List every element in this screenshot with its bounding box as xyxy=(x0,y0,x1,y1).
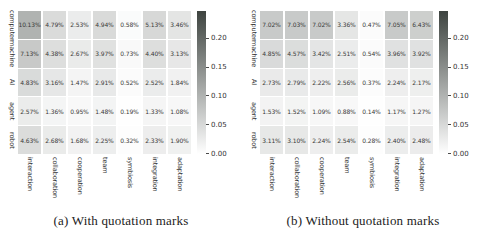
colorbar-tick: 0.10 xyxy=(448,92,469,100)
colorbar-tick: 0.20 xyxy=(448,34,469,42)
column-label: interaction xyxy=(260,157,283,209)
column-label: team xyxy=(335,157,358,209)
heatmap-cell: 3.10% xyxy=(285,126,308,154)
row-label-text: computer xyxy=(8,10,16,41)
panel-with-quotes: computermachineAIagentrobot 10.13%4.79%2… xyxy=(0,0,242,229)
heatmap-cell: 2.22% xyxy=(310,69,333,97)
heatmap-cell: 3.96% xyxy=(385,40,408,68)
row-label: AI xyxy=(247,69,260,97)
colorbar-tick-mark xyxy=(206,95,209,96)
column-label: adaptation xyxy=(410,157,433,209)
column-label-text: interaction xyxy=(268,157,276,191)
heatmap-cell: 2.56% xyxy=(335,69,358,97)
heatmap-cell: 4.57% xyxy=(285,40,308,68)
heatmap-grid: 7.02%7.03%7.02%3.36%0.47%7.05%6.43%4.85%… xyxy=(260,11,433,154)
heatmap-cell: 2.67% xyxy=(68,40,91,68)
column-label-text: team xyxy=(101,157,109,173)
column-label-text: symbiosis xyxy=(368,157,376,188)
column-label: integration xyxy=(143,157,166,209)
column-label: cooperation xyxy=(68,157,91,209)
heatmap-cell: 4.83% xyxy=(18,69,41,97)
heatmap-cell: 4.79% xyxy=(43,11,66,39)
x-axis-labels: interactioncollaborationcooperationteams… xyxy=(18,157,191,209)
colorbar-gradient xyxy=(197,11,206,154)
column-label-text: integration xyxy=(151,157,159,192)
heatmap-cell: 2.25% xyxy=(93,126,116,154)
colorbar-tick-label: 0.20 xyxy=(211,34,227,42)
heatmap-cell: 1.53% xyxy=(260,97,283,125)
colorbar-tick-label: 0.10 xyxy=(453,92,469,100)
heatmap-cell: 0.54% xyxy=(360,40,383,68)
row-label: computer xyxy=(5,11,18,39)
row-label: robot xyxy=(5,126,18,154)
y-axis-labels: computermachineAIagentrobot xyxy=(247,11,260,154)
heatmap-cell: 4.94% xyxy=(93,11,116,39)
column-label: team xyxy=(93,157,116,209)
colorbar-tick-mark xyxy=(206,67,209,68)
heatmap-cell: 2.40% xyxy=(385,126,408,154)
heatmap-cell: 7.02% xyxy=(260,11,283,39)
column-label-text: adaptation xyxy=(176,157,184,191)
heatmap-cell: 2.73% xyxy=(260,69,283,97)
heatmap-cell: 2.57% xyxy=(18,97,41,125)
row-label-text: robot xyxy=(8,132,16,149)
column-label: interaction xyxy=(18,157,41,209)
row-label-text: machine xyxy=(250,40,258,67)
heatmap-cell: 0.52% xyxy=(118,69,141,97)
heatmap-cell: 3.36% xyxy=(335,11,358,39)
row-label: machine xyxy=(5,40,18,68)
heatmap-cell: 0.14% xyxy=(360,97,383,125)
colorbar-tick: 0.00 xyxy=(206,150,227,158)
heatmap-cell: 3.42% xyxy=(310,40,333,68)
heatmap-cell: 2.24% xyxy=(310,126,333,154)
row-label-text: AI xyxy=(8,79,16,85)
column-label: symbiosis xyxy=(118,157,141,209)
heatmap-cell: 0.47% xyxy=(360,11,383,39)
heatmap-cell: 3.92% xyxy=(410,40,433,68)
heatmap-cell: 0.58% xyxy=(118,11,141,39)
subfigure-caption: (a) With quotation marks xyxy=(0,213,242,229)
heatmap-cell: 2.33% xyxy=(143,126,166,154)
heatmap-cell: 4.85% xyxy=(260,40,283,68)
colorbar-tick: 0.05 xyxy=(206,121,227,129)
row-label-text: AI xyxy=(250,79,258,85)
column-label: adaptation xyxy=(168,157,191,209)
column-label-text: collaboration xyxy=(51,157,59,198)
colorbar-tick: 0.15 xyxy=(206,63,227,71)
colorbar-tick-mark xyxy=(206,38,209,39)
column-label: collaboration xyxy=(285,157,308,209)
heatmap-cell: 1.09% xyxy=(310,97,333,125)
heatmap-cell: 1.33% xyxy=(143,97,166,125)
column-label: cooperation xyxy=(310,157,333,209)
column-label-text: cooperation xyxy=(318,157,326,195)
heatmap-cell: 1.27% xyxy=(410,97,433,125)
heatmap-cell: 3.97% xyxy=(93,40,116,68)
heatmap-cell: 1.68% xyxy=(68,126,91,154)
subfigure-caption: (b) Without quotation marks xyxy=(242,213,484,229)
colorbar-tick-label: 0.20 xyxy=(453,34,469,42)
row-label-text: robot xyxy=(250,132,258,149)
row-label: robot xyxy=(247,126,260,154)
heatmap-cell: 1.48% xyxy=(93,97,116,125)
heatmap-cell: 4.40% xyxy=(143,40,166,68)
heatmap-cell: 1.17% xyxy=(385,97,408,125)
heatmap-cell: 6.43% xyxy=(410,11,433,39)
row-label-text: agent xyxy=(8,102,16,120)
heatmap-cell: 1.90% xyxy=(168,126,191,154)
colorbar-tick-mark xyxy=(206,153,209,154)
heatmap-cell: 3.46% xyxy=(168,11,191,39)
heatmap-cell: 7.02% xyxy=(310,11,333,39)
colorbar: 0.200.150.100.050.00 xyxy=(439,11,483,154)
heatmap-cell: 3.13% xyxy=(168,40,191,68)
heatmap-cell: 2.53% xyxy=(68,11,91,39)
heatmap-cell: 2.91% xyxy=(93,69,116,97)
column-label-text: interaction xyxy=(26,157,34,191)
heatmap-cell: 1.47% xyxy=(68,69,91,97)
colorbar-tick: 0.05 xyxy=(448,121,469,129)
heatmap-cell: 2.48% xyxy=(410,126,433,154)
y-axis-labels: computermachineAIagentrobot xyxy=(5,11,18,154)
colorbar-tick-mark xyxy=(448,153,451,154)
colorbar: 0.200.150.100.050.00 xyxy=(197,11,241,154)
heatmap-grid: 10.13%4.79%2.53%4.94%0.58%5.13%3.46%7.13… xyxy=(18,11,191,154)
colorbar-tick-mark xyxy=(448,67,451,68)
